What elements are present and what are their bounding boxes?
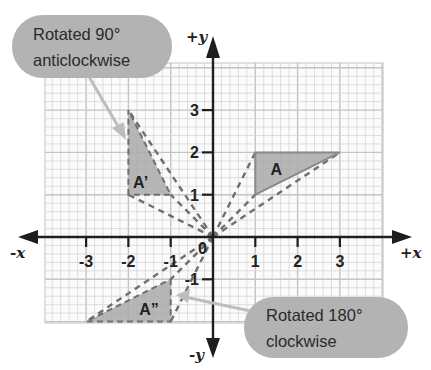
triangle-label-A: A (270, 161, 282, 178)
x-tick-label: -2 (121, 253, 135, 270)
y-tick-label: 1 (190, 187, 199, 204)
x-axis-arrow-right-icon (392, 230, 412, 244)
x-neg-label: -x (10, 244, 26, 262)
callout-line-2: clockwise (266, 332, 337, 350)
x-tick-label: 1 (251, 253, 260, 270)
callout-line-2: anticlockwise (33, 51, 130, 69)
y-axis-arrow-up-icon (206, 36, 220, 58)
x-tick-label: -3 (79, 253, 93, 270)
y-tick-label: 3 (190, 102, 199, 119)
x-tick-label: -1 (164, 253, 178, 270)
y-pos-label: +y (186, 28, 209, 46)
x-tick-label: 2 (293, 253, 302, 270)
y-neg-label: -y (189, 346, 205, 364)
y-axis-arrow-down-icon (206, 338, 220, 358)
callout-line-1: Rotated 90° (33, 25, 120, 43)
x-axis-arrow-left-icon (18, 230, 38, 244)
x-pos-label: +x (400, 244, 423, 262)
origin-label: 0 (198, 240, 207, 257)
triangle-label-A-prime: A’ (133, 174, 148, 191)
callout-line-1: Rotated 180° (266, 306, 363, 324)
y-tick-label: 2 (190, 144, 199, 161)
y-tick-label: -1 (185, 271, 199, 288)
triangle-label-A-double-prime: A” (139, 301, 159, 318)
rotation-diagram: AA’A” -3-2-1123321-1 +x -x +y -y 0 Rotat… (0, 0, 431, 370)
x-tick-label: 3 (335, 253, 344, 270)
